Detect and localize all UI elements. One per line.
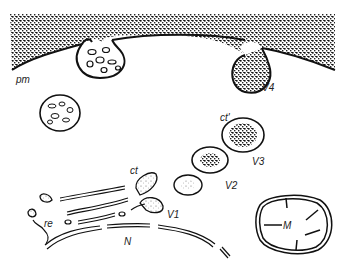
vacuole-with-inclusions: [40, 95, 80, 131]
label-v4: V4: [262, 82, 274, 93]
label-re: re: [44, 218, 53, 229]
vacuole-v2: [192, 147, 228, 173]
label-v1: V1: [167, 209, 179, 220]
nuclear-envelope: [45, 224, 230, 258]
label-pm: pm: [16, 74, 30, 85]
cell-coat: [10, 14, 335, 70]
vesicle-invagination-left: [77, 40, 125, 78]
label-ct: ct: [130, 165, 138, 176]
label-v2: V2: [225, 180, 237, 191]
small-vesicles: [87, 48, 121, 73]
label-v3: V3: [252, 156, 264, 167]
vacuole-v3: [222, 118, 264, 152]
mitochondrion: [256, 195, 332, 253]
label-n: N: [124, 236, 131, 247]
label-ct-prime: ct': [220, 112, 230, 123]
label-m: M: [283, 220, 291, 231]
vacuole-v1: [174, 175, 202, 195]
